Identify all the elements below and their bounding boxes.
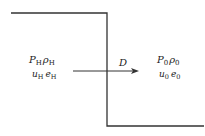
right-state-label: P0ρ0 u0e0 bbox=[156, 54, 180, 81]
shock-diagram: D PHρH uHeH P0ρ0 u0e0 bbox=[0, 0, 205, 136]
left-state-label: PHρH uHeH bbox=[28, 54, 57, 81]
arrow-label: D bbox=[118, 57, 127, 68]
svg-text:P0ρ0: P0ρ0 bbox=[156, 54, 180, 67]
svg-text:u0e0: u0e0 bbox=[159, 69, 180, 81]
svg-text:uHeH: uHeH bbox=[32, 69, 57, 81]
svg-text:PHρH: PHρH bbox=[28, 54, 55, 67]
